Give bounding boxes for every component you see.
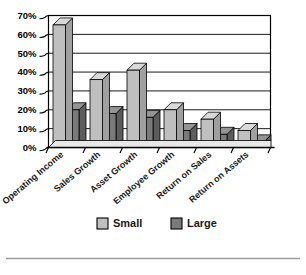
bar-chart-figure: 0%10%20%30%40%50%60%70% Operating Income… xyxy=(0,0,306,275)
y-axis-tickmark xyxy=(40,34,49,37)
category-label: Operating Income xyxy=(0,149,65,206)
bar-front-face xyxy=(53,25,66,148)
x-axis-tickmark xyxy=(120,148,123,154)
bar-small xyxy=(53,18,73,148)
y-axis-tickmark xyxy=(40,53,49,56)
y-axis-tick-label: 40% xyxy=(17,66,37,77)
y-axis-tickmark xyxy=(40,72,49,75)
legend-label-small: Small xyxy=(113,217,142,229)
y-axis-tick-label: 30% xyxy=(17,85,37,96)
x-axis-tickmark xyxy=(194,148,197,154)
y-axis-tick-label: 70% xyxy=(17,10,37,21)
category-label: Employee Growth xyxy=(111,149,176,206)
chart-canvas: 0%10%20%30%40%50%60%70% Operating Income… xyxy=(0,0,306,275)
bar-side-face xyxy=(103,73,110,148)
bar-small xyxy=(90,73,110,148)
bar-small xyxy=(127,63,147,147)
y-axis-tickmark xyxy=(40,16,49,19)
bar-front-face xyxy=(90,80,103,148)
bar-side-face xyxy=(66,18,73,148)
y-axis-tickmark xyxy=(40,91,49,94)
x-axis-tickmark xyxy=(157,148,160,154)
y-axis-tick-label: 0% xyxy=(23,142,37,153)
y-axis-tickmark xyxy=(40,129,49,132)
x-axis-tickmark xyxy=(231,148,234,154)
x-axis-tickmark xyxy=(268,148,271,154)
y-axis-tick-label: 10% xyxy=(17,123,37,134)
legend-label-large: Large xyxy=(187,217,217,229)
bar-front-face xyxy=(127,70,140,147)
x-axis-baseline xyxy=(47,141,275,148)
y-axis-tick-label: 20% xyxy=(17,104,37,115)
bar-side-face xyxy=(140,63,147,147)
x-axis-tickmarks xyxy=(46,148,271,154)
x-axis-category-labels: Operating IncomeSales GrowthAsset Growth… xyxy=(0,149,250,206)
legend-swatch-small[interactable] xyxy=(97,218,108,229)
axis-floor xyxy=(49,141,272,148)
chart-legend: SmallLarge xyxy=(97,217,217,229)
x-axis-tickmark xyxy=(83,148,86,154)
y-axis-tick-label: 60% xyxy=(17,29,37,40)
y-axis-tickmark xyxy=(40,110,49,113)
y-axis-tickmarks xyxy=(40,16,49,151)
y-axis-tick-labels: 0%10%20%30%40%50%60%70% xyxy=(17,10,37,153)
y-axis-tick-label: 50% xyxy=(17,48,37,59)
legend-swatch-large[interactable] xyxy=(171,218,182,229)
